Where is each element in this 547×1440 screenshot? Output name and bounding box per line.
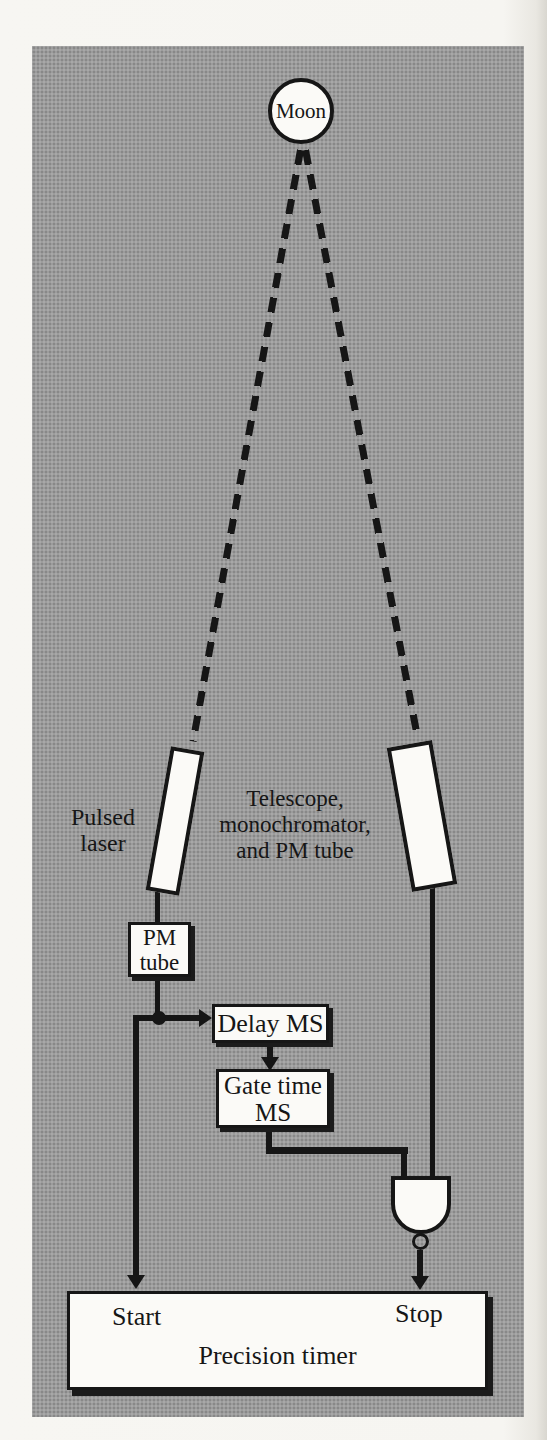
wire-start-vertical [133, 1015, 139, 1278]
moon-label: Moon [276, 99, 326, 124]
timer-start-label: Start [112, 1302, 161, 1332]
wire-telescope-to-gate [430, 878, 435, 1180]
nand-gate-body [391, 1176, 451, 1234]
nand-gate-bubble [412, 1233, 429, 1250]
wire-gate-to-stop [417, 1250, 423, 1278]
delay-ms-box: Delay MS [212, 1004, 329, 1043]
arrowhead-stop [411, 1276, 429, 1290]
junction-dot [152, 1011, 166, 1025]
telescope-label-line3: and PM tube [219, 838, 371, 864]
delay-ms-label: Delay MS [217, 1009, 323, 1039]
pulsed-laser-label-line2: laser [48, 830, 158, 856]
gate-time-box: Gate time MS [216, 1069, 330, 1128]
pulsed-laser-label: Pulsed laser [48, 804, 158, 856]
arrowhead-into-delay [199, 1009, 212, 1027]
wire-gate-left-input [401, 1147, 407, 1179]
telescope-label: Telescope, monochromator, and PM tube [219, 786, 371, 864]
gate-time-line1: Gate time [224, 1072, 322, 1099]
wire-gatetime-horizontal [266, 1147, 408, 1154]
pm-tube-box: PM tube [128, 922, 191, 977]
gate-time-line2: MS [255, 1099, 291, 1126]
pm-tube-line1: PM [143, 925, 176, 950]
pm-tube-line2: tube [140, 950, 180, 975]
moon-node: Moon [268, 78, 334, 144]
arrowhead-into-gatetime [261, 1057, 279, 1071]
arrowhead-start [127, 1275, 145, 1289]
precision-timer-box: Start Stop Precision timer [67, 1291, 488, 1390]
scanned-page: Moon Pulsed laser Telescope, monochromat… [0, 0, 547, 1440]
timer-stop-label: Stop [395, 1299, 443, 1329]
timer-title: Precision timer [70, 1341, 485, 1371]
wire-junction-to-delay [133, 1015, 200, 1021]
telescope-label-line2: monochromator, [219, 812, 371, 838]
telescope-label-line1: Telescope, [219, 786, 371, 812]
pulsed-laser-label-line1: Pulsed [48, 804, 158, 830]
